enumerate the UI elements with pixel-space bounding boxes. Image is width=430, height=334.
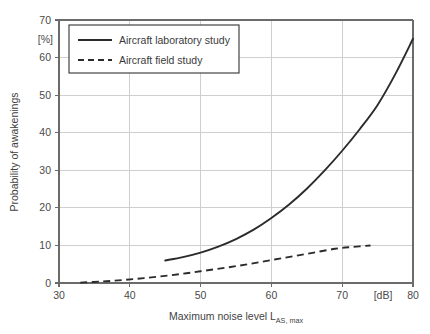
x-axis-title: Maximum noise level LAS, max <box>169 310 303 325</box>
y-tick-label: 70 <box>39 14 51 26</box>
y-tick-label: 0 <box>45 277 51 289</box>
y-tick-label: 60 <box>39 51 51 63</box>
x-axis-ticks: 304050607080 <box>53 283 419 301</box>
x-axis-title-text: Maximum noise level LAS, max <box>169 310 303 325</box>
y-tick-label: 50 <box>39 89 51 101</box>
y-tick-label: 10 <box>39 239 51 251</box>
y-tick-label: 30 <box>39 164 51 176</box>
x-tick-label: 30 <box>53 289 65 301</box>
legend-label-0: Aircraft laboratory study <box>119 34 231 46</box>
y-tick-label: 20 <box>39 201 51 213</box>
probability-of-awakenings-line-chart: 010203040506070 304050607080 [%] [dB] Pr… <box>0 0 430 334</box>
x-tick-label: 40 <box>124 289 136 301</box>
chart-figure: 010203040506070 304050607080 [%] [dB] Pr… <box>0 0 430 334</box>
x-axis-title-main: Maximum noise level L <box>169 310 276 322</box>
x-unit-label: [dB] <box>374 289 393 301</box>
x-tick-label: 80 <box>407 289 419 301</box>
x-tick-label: 60 <box>266 289 278 301</box>
x-axis-title-subscript: AS, max <box>276 316 304 325</box>
legend-label-1: Aircraft field study <box>119 54 203 66</box>
x-tick-label: 70 <box>336 289 348 301</box>
y-unit-label: [%] <box>38 33 53 45</box>
y-tick-label: 40 <box>39 126 51 138</box>
chart-legend[interactable]: Aircraft laboratory study Aircraft field… <box>69 25 239 73</box>
y-axis-title: Probability of awakenings <box>8 92 20 211</box>
y-axis-title-text: Probability of awakenings <box>8 92 20 211</box>
y-axis-ticks: 010203040506070 <box>39 14 59 289</box>
y-unit-text: [%] <box>38 33 53 45</box>
x-unit-text: [dB] <box>374 289 393 301</box>
x-tick-label: 50 <box>195 289 207 301</box>
